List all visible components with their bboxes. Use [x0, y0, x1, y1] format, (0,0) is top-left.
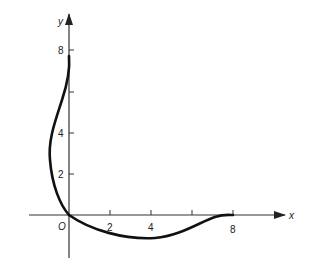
origin-label: O [58, 221, 66, 232]
y-tick-label-8: 8 [58, 45, 64, 56]
x-tick-label-4: 4 [148, 222, 154, 233]
parametric-curve-diagram: 2 4 8 2 4 8 O x y [0, 0, 310, 269]
y-axis-label: y [57, 16, 64, 27]
y-tick-label-2: 2 [58, 169, 64, 180]
x-tick-label-8: 8 [230, 224, 236, 235]
x-ticks [110, 210, 233, 215]
x-axis-label: x [288, 210, 295, 221]
y-tick-label-4: 4 [58, 128, 64, 139]
